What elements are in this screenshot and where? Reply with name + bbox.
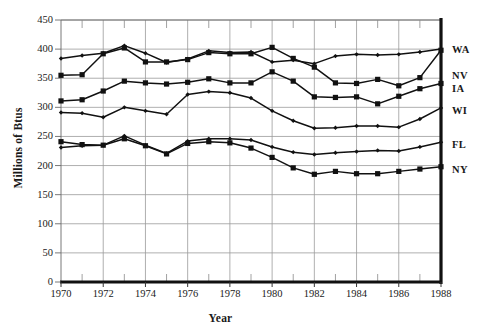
- data-marker-square: [227, 140, 232, 145]
- data-marker-square: [312, 172, 317, 177]
- data-marker-square: [143, 143, 148, 148]
- x-axis-tick-label: 1974: [123, 288, 167, 299]
- legend-label-fl: FL: [452, 139, 466, 150]
- data-marker-square: [438, 164, 443, 169]
- data-marker-square: [101, 51, 106, 56]
- y-axis-tick-label: 350: [23, 73, 53, 83]
- data-marker-square: [333, 80, 338, 85]
- data-marker-square: [164, 81, 169, 86]
- data-marker-square: [80, 142, 85, 147]
- legend-label-ia: IA: [452, 83, 464, 94]
- data-marker-square: [248, 145, 253, 150]
- data-marker-square: [227, 80, 232, 85]
- y-axis-tick-label: 450: [23, 15, 53, 25]
- data-marker-square: [143, 80, 148, 85]
- data-marker-square: [185, 57, 190, 62]
- data-marker-square: [101, 88, 106, 93]
- data-marker-square: [122, 79, 127, 84]
- data-marker-square: [291, 56, 296, 61]
- line-chart: Millions of Btus Year 050100150200250300…: [0, 0, 481, 333]
- data-marker-square: [206, 139, 211, 144]
- data-marker-square: [206, 50, 211, 55]
- y-axis-tick-label: 250: [23, 131, 53, 141]
- data-marker-square: [80, 72, 85, 77]
- data-marker-square: [375, 77, 380, 82]
- data-marker-square: [354, 94, 359, 99]
- data-marker-square: [312, 94, 317, 99]
- data-marker-square: [206, 76, 211, 81]
- data-marker-square: [417, 86, 422, 91]
- y-axis-tick-label: 50: [23, 248, 53, 258]
- data-marker-square: [291, 79, 296, 84]
- top-faint-caption: [60, 0, 360, 10]
- data-marker-square: [164, 151, 169, 156]
- data-marker-square: [270, 155, 275, 160]
- data-marker-square: [185, 141, 190, 146]
- data-marker-square: [396, 83, 401, 88]
- data-marker-square: [227, 51, 232, 56]
- data-marker-square: [122, 136, 127, 141]
- x-axis-tick-label: 1986: [377, 288, 421, 299]
- data-marker-square: [417, 75, 422, 80]
- data-marker-square: [101, 143, 106, 148]
- y-axis-tick-label: 100: [23, 219, 53, 229]
- legend-label-ny: NY: [452, 164, 468, 175]
- data-marker-square: [58, 139, 63, 144]
- x-axis-tick-label: 1984: [335, 288, 379, 299]
- x-axis-tick-label: 1982: [292, 288, 336, 299]
- data-marker-square: [333, 95, 338, 100]
- y-axis-tick-label: 0: [23, 277, 53, 287]
- data-marker-square: [417, 166, 422, 171]
- data-marker-square: [185, 80, 190, 85]
- data-marker-square: [80, 97, 85, 102]
- data-marker-square: [354, 81, 359, 86]
- y-axis-tick-label: 400: [23, 44, 53, 54]
- data-marker-square: [354, 171, 359, 176]
- x-axis-tick-label: 1978: [208, 288, 252, 299]
- y-axis-tick-label: 200: [23, 161, 53, 171]
- data-marker-square: [58, 98, 63, 103]
- data-marker-square: [248, 80, 253, 85]
- data-marker-square: [396, 94, 401, 99]
- x-axis-tick-label: 1980: [250, 288, 294, 299]
- data-marker-square: [438, 81, 443, 86]
- legend-label-wi: WI: [452, 105, 467, 116]
- data-marker-square: [248, 51, 253, 56]
- data-marker-square: [333, 169, 338, 174]
- data-marker-square: [375, 171, 380, 176]
- data-marker-square: [396, 169, 401, 174]
- data-marker-square: [375, 101, 380, 106]
- data-marker-square: [270, 45, 275, 50]
- y-axis-tick-label: 150: [23, 190, 53, 200]
- x-axis-tick-label: 1988: [419, 288, 463, 299]
- data-marker-square: [122, 45, 127, 50]
- plot-area: [0, 0, 481, 333]
- data-marker-square: [291, 165, 296, 170]
- x-axis-tick-label: 1970: [39, 288, 83, 299]
- data-marker-square: [164, 59, 169, 64]
- x-axis-tick-label: 1976: [166, 288, 210, 299]
- data-marker-square: [58, 73, 63, 78]
- data-marker-square: [312, 65, 317, 70]
- x-axis-title: Year: [0, 312, 441, 324]
- y-axis-tick-label: 300: [23, 102, 53, 112]
- legend-label-wa: WA: [452, 44, 470, 55]
- x-axis-tick-label: 1972: [81, 288, 125, 299]
- y-axis-title: Millions of Btus: [12, 68, 24, 228]
- data-marker-square: [143, 59, 148, 64]
- data-marker-square: [270, 69, 275, 74]
- data-marker-square: [438, 48, 443, 53]
- legend-label-nv: NV: [452, 70, 468, 81]
